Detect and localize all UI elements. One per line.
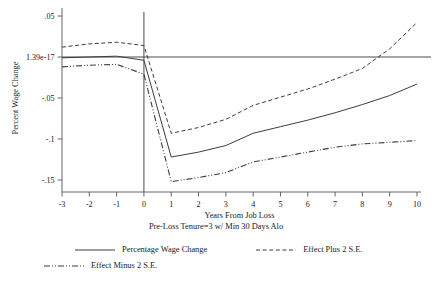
legend-swatch-dashed bbox=[256, 246, 296, 254]
x-tick-label: 10 bbox=[413, 200, 421, 209]
x-tick-label: -2 bbox=[86, 200, 93, 209]
legend-row-bottom: Effect Minus 2 S.E. bbox=[44, 261, 157, 270]
y-tick-label: -.1 bbox=[46, 135, 55, 144]
x-tick-label: 0 bbox=[142, 200, 146, 209]
x-tick-label: 1 bbox=[169, 200, 173, 209]
legend-swatch-dashdot bbox=[44, 262, 84, 270]
legend-label-percentage-wage-change: Percentage Wage Change bbox=[122, 245, 207, 254]
x-tick-label: 4 bbox=[251, 200, 255, 209]
chart-subtitle: Pre-Loss Tenure=3 w/ Min 30 Days Alo bbox=[0, 222, 432, 231]
y-tick-label: .05 bbox=[44, 12, 54, 21]
y-tick-label: -.05 bbox=[42, 94, 55, 103]
legend-row-top: Percentage Wage Change Effect Plus 2 S.E… bbox=[75, 245, 362, 254]
x-tick-label: 5 bbox=[278, 200, 282, 209]
chart-figure: .051.39e-17-.05-.1-.15-3-2-1012345678910… bbox=[0, 0, 432, 282]
chart-legend: Percentage Wage Change Effect Plus 2 S.E… bbox=[0, 243, 432, 279]
x-tick-label: 8 bbox=[360, 200, 364, 209]
x-tick-label: 2 bbox=[197, 200, 201, 209]
series-line-solid bbox=[62, 56, 417, 157]
legend-label-effect-plus-2-se: Effect Plus 2 S.E. bbox=[303, 245, 362, 254]
x-tick-label: -3 bbox=[59, 200, 66, 209]
series-line-dashed bbox=[62, 23, 417, 134]
x-tick-label: 3 bbox=[224, 200, 228, 209]
legend-swatch-solid bbox=[75, 246, 115, 254]
x-tick-label: -1 bbox=[113, 200, 120, 209]
series-line-dashdot bbox=[62, 64, 417, 181]
legend-entry-effect-minus-2-se: Effect Minus 2 S.E. bbox=[44, 261, 157, 270]
legend-label-effect-minus-2-se: Effect Minus 2 S.E. bbox=[91, 261, 157, 270]
x-tick-label: 7 bbox=[333, 200, 337, 209]
legend-entry-effect-plus-2-se: Effect Plus 2 S.E. bbox=[256, 245, 362, 254]
x-tick-label: 9 bbox=[388, 200, 392, 209]
legend-entry-percentage-wage-change: Percentage Wage Change bbox=[75, 245, 207, 254]
chart-plot-area: .051.39e-17-.05-.1-.15-3-2-1012345678910… bbox=[0, 0, 432, 282]
y-tick-label: 1.39e-17 bbox=[26, 53, 55, 62]
x-tick-label: 6 bbox=[306, 200, 310, 209]
y-tick-label: -.15 bbox=[42, 176, 55, 185]
y-axis-title: Percent Wage Change bbox=[11, 61, 20, 134]
x-axis-title: Years From Job Loss bbox=[205, 211, 275, 220]
